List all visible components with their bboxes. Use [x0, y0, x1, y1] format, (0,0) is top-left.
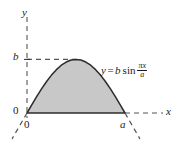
y-axis-tick-zero: 0: [13, 105, 19, 116]
x-axis-tick-a: a: [120, 119, 126, 130]
y-axis-label: y: [22, 7, 27, 18]
equation-equals: =: [106, 65, 115, 76]
sine-extension-right: [125, 113, 140, 139]
x-axis-label: x: [166, 106, 171, 117]
x-axis-tick-zero: 0: [24, 119, 30, 130]
equation-function: sin: [121, 65, 136, 76]
equation-fraction: πx a: [137, 62, 147, 80]
curve-equation-label: y = b sin πx a: [101, 62, 147, 80]
equation-denominator: a: [139, 71, 145, 79]
sine-arch-figure: y x b 0 0 a y = b sin πx a: [0, 0, 178, 149]
equation-numerator: πx: [137, 62, 147, 70]
y-axis-tick-b: b: [13, 51, 19, 62]
